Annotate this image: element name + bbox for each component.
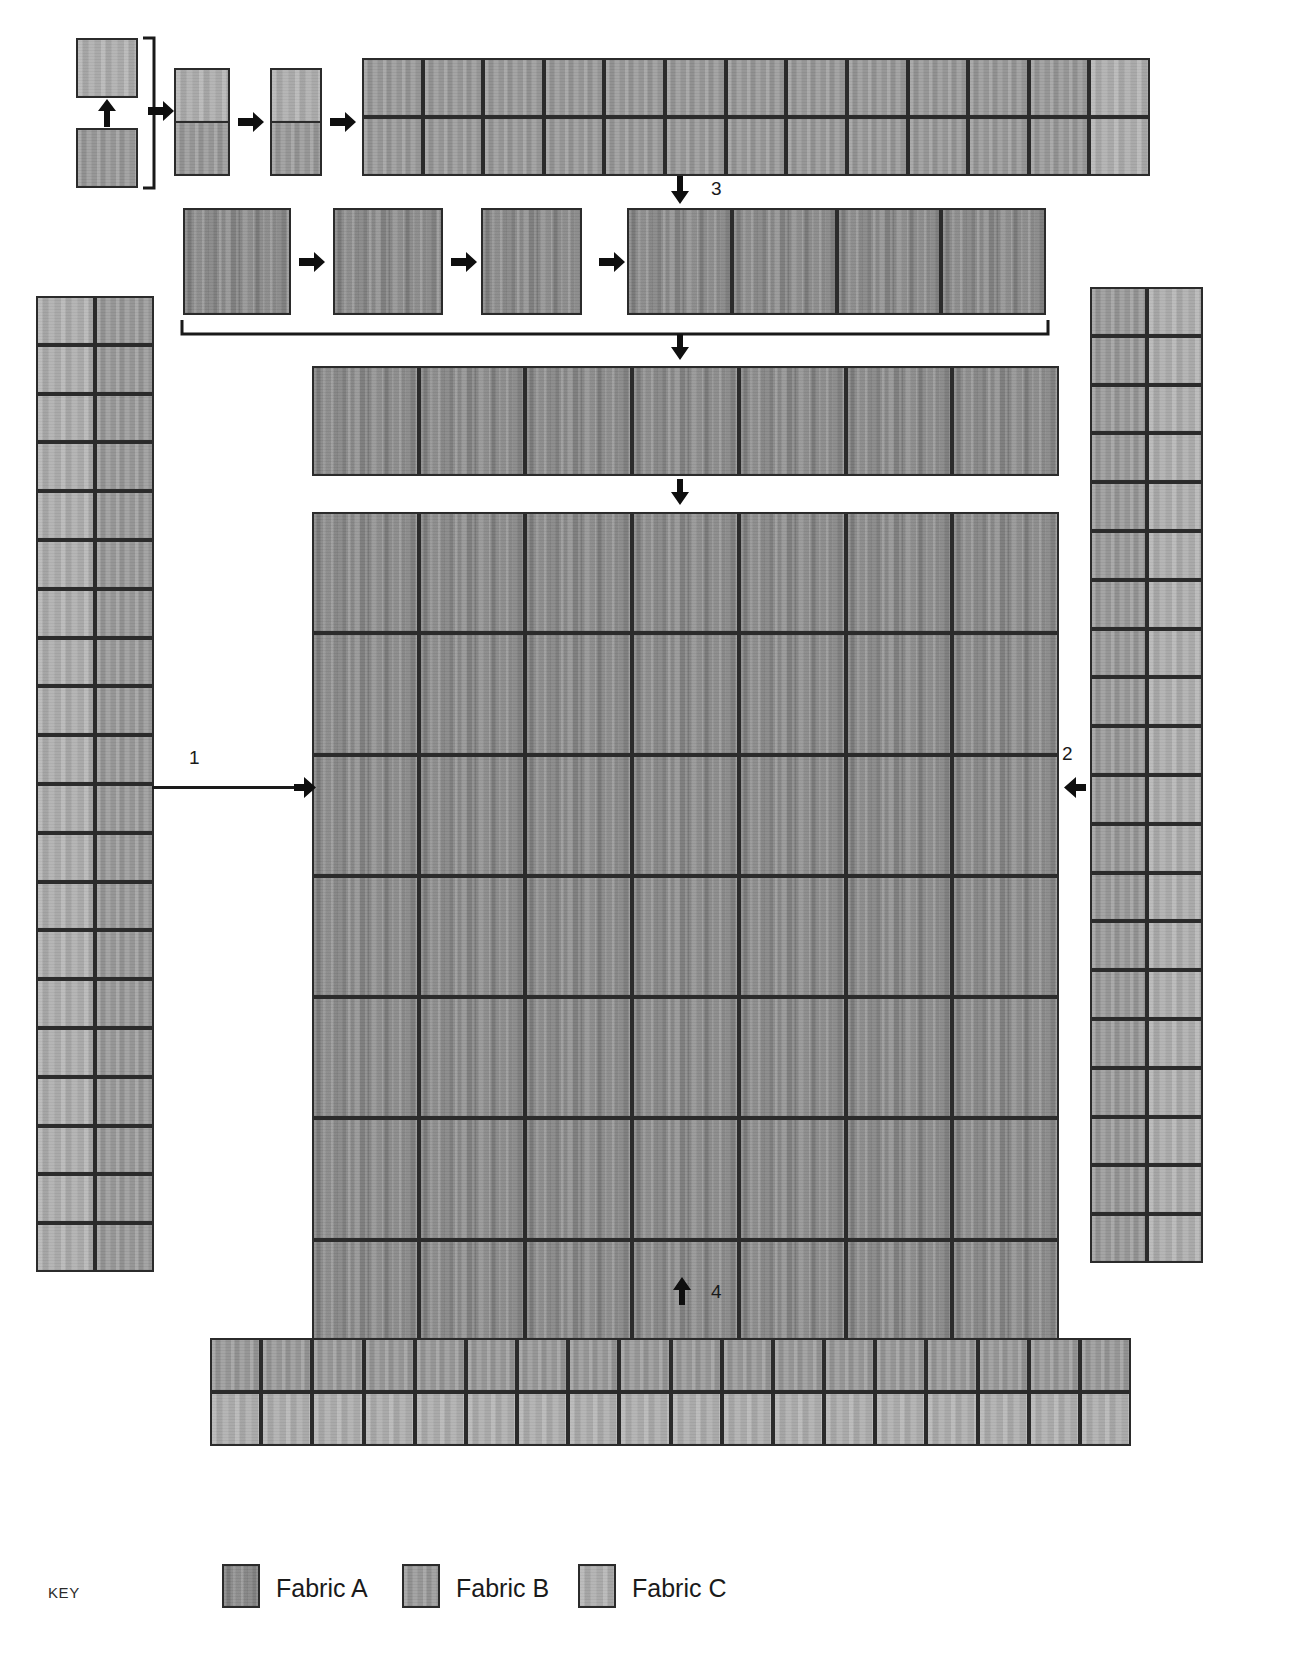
quilt-center-block-6-6 [846, 1118, 952, 1240]
row1-strip-cell-1-13 [1089, 58, 1150, 117]
left-border-cell-7-1 [36, 589, 95, 638]
row1-strip-cell-1-3 [483, 58, 544, 117]
left-border-cell-7-2 [95, 589, 154, 638]
row1-strip-cell-1-2 [423, 58, 483, 117]
right-border-cell-8-2 [1147, 629, 1203, 677]
left-border-cell-6-2 [95, 540, 154, 589]
bottom-border-cell-1-2 [261, 1338, 312, 1392]
quilt-center-block-6-4 [632, 1118, 739, 1240]
bottom-border-cell-1-7 [517, 1338, 568, 1392]
step-2-label: 2 [1062, 744, 1073, 763]
row1-strip-cell-2-10 [908, 117, 968, 176]
row1-strip-cell-2-6 [665, 117, 726, 176]
left-border-cell-16-2 [95, 1028, 154, 1077]
bottom-border-cell-2-15 [926, 1392, 978, 1446]
row1-long-strip [362, 58, 1150, 176]
step-1-arrow-icon [294, 776, 316, 799]
left-border-cell-19-1 [36, 1174, 95, 1223]
row1-strip-cell-2-11 [968, 117, 1029, 176]
left-border-cell-13-1 [36, 882, 95, 930]
bottom-border-cell-2-4 [364, 1392, 415, 1446]
bottom-border-cell-2-8 [568, 1392, 619, 1446]
row3-to-center-arrow-icon [669, 479, 691, 505]
quilt-center-block-2-6 [846, 633, 952, 755]
left-border-cell-9-1 [36, 686, 95, 735]
left-border-cell-12-1 [36, 833, 95, 882]
left-border-cell-19-2 [95, 1174, 154, 1223]
quilt-center-block-4-3 [525, 876, 632, 997]
left-border-cell-4-1 [36, 442, 95, 491]
right-border-cell-2-1 [1090, 336, 1147, 385]
legend-label-fabric-c: Fabric C [632, 1574, 726, 1603]
bottom-border-strip [210, 1338, 1131, 1446]
right-border-cell-1-1 [1090, 287, 1147, 336]
left-border-cell-8-1 [36, 638, 95, 686]
row3-cell-4 [632, 366, 739, 476]
row1-strip-cell-1-7 [726, 58, 786, 117]
row1-strip-cell-2-12 [1029, 117, 1089, 176]
bottom-border-cell-1-9 [619, 1338, 671, 1392]
key-word-label: KEY [48, 1584, 80, 1601]
quilt-center-block-6-3 [525, 1118, 632, 1240]
left-border-cell-11-2 [95, 784, 154, 833]
right-border-cell-8-1 [1090, 629, 1147, 677]
right-border-cell-15-1 [1090, 970, 1147, 1019]
row1-arrow-2-icon [238, 111, 264, 133]
bottom-border-cell-2-2 [261, 1392, 312, 1446]
quilt-center-block-6-7 [952, 1118, 1059, 1240]
row3-cell-7 [952, 366, 1059, 476]
quilt-center-block-4-1 [312, 876, 419, 997]
right-border-strip [1090, 287, 1203, 1263]
quilt-center-block-1-3 [525, 512, 632, 633]
left-border-cell-15-2 [95, 979, 154, 1028]
bottom-border-cell-2-5 [415, 1392, 466, 1446]
right-border-cell-18-1 [1090, 1117, 1147, 1165]
row1-unit-1-bottom [174, 121, 230, 176]
quilt-center-block-1-1 [312, 512, 419, 633]
right-border-cell-17-1 [1090, 1068, 1147, 1117]
row2-square-3 [481, 208, 582, 315]
right-border-cell-19-1 [1090, 1165, 1147, 1214]
left-border-cell-2-2 [95, 345, 154, 394]
row1-strip-cell-1-4 [544, 58, 604, 117]
row2-arrow-2-icon [451, 251, 477, 273]
left-border-cell-4-2 [95, 442, 154, 491]
quilt-center-block-4-7 [952, 876, 1059, 997]
row2-square-2 [333, 208, 443, 315]
left-border-cell-1-1 [36, 296, 95, 345]
quilt-center-block-2-3 [525, 633, 632, 755]
left-border-cell-10-2 [95, 735, 154, 784]
bottom-border-cell-1-10 [671, 1338, 722, 1392]
quilt-center-body [312, 512, 1059, 1361]
left-border-cell-13-2 [95, 882, 154, 930]
left-border-cell-14-1 [36, 930, 95, 979]
right-border-cell-19-2 [1147, 1165, 1203, 1214]
row1-strip-cell-2-5 [604, 117, 665, 176]
right-border-cell-6-2 [1147, 531, 1203, 580]
row2-result-cell-4 [941, 208, 1046, 315]
row1-strip-cell-2-7 [726, 117, 786, 176]
quilt-center-block-1-5 [739, 512, 846, 633]
row1-strip-cell-1-6 [665, 58, 726, 117]
right-border-cell-13-1 [1090, 873, 1147, 921]
legend-swatch-fabric-b [402, 1564, 440, 1608]
left-border-cell-3-1 [36, 394, 95, 442]
bottom-border-cell-2-13 [824, 1392, 875, 1446]
bottom-border-cell-2-16 [978, 1392, 1029, 1446]
quilt-center-block-4-6 [846, 876, 952, 997]
row3-cell-3 [525, 366, 632, 476]
quilt-center-block-5-5 [739, 997, 846, 1118]
bottom-border-cell-2-14 [875, 1392, 926, 1446]
left-border-cell-15-1 [36, 979, 95, 1028]
row1-source-square-bottom [76, 128, 138, 188]
step-4-label: 4 [711, 1282, 722, 1301]
row1-unit-1-top [174, 68, 230, 123]
bottom-border-cell-1-5 [415, 1338, 466, 1392]
row1-strip-cell-1-10 [908, 58, 968, 117]
quilt-center-block-6-2 [419, 1118, 525, 1240]
left-border-cell-16-1 [36, 1028, 95, 1077]
quilt-center-block-2-5 [739, 633, 846, 755]
step-1-line [152, 786, 298, 789]
quilt-center-block-4-2 [419, 876, 525, 997]
bottom-border-cell-1-14 [875, 1338, 926, 1392]
